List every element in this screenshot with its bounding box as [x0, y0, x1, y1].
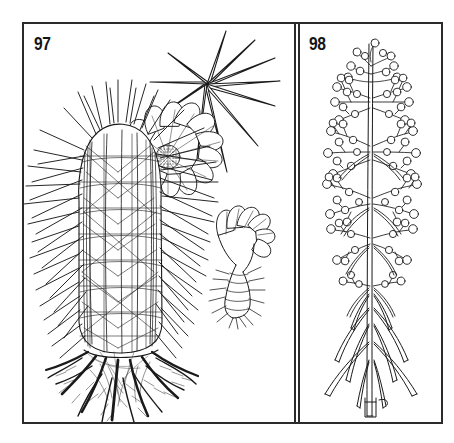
figure-label-98: 98 — [309, 34, 326, 53]
main-stem — [367, 44, 373, 416]
panel-divider — [294, 22, 299, 424]
panel-98: 98 — [299, 22, 443, 424]
divider-rule-right — [298, 22, 300, 424]
illustration-plate: 97 — [0, 0, 454, 443]
figure-label-97: 97 — [34, 34, 51, 53]
divider-rule-left — [294, 22, 296, 424]
tubular-flower — [209, 206, 275, 329]
root-system — [46, 350, 198, 422]
figure-97-artwork — [22, 22, 294, 424]
panel-97: 97 — [22, 22, 294, 424]
linear-leaves — [325, 294, 417, 408]
figure-98-artwork — [299, 22, 443, 424]
